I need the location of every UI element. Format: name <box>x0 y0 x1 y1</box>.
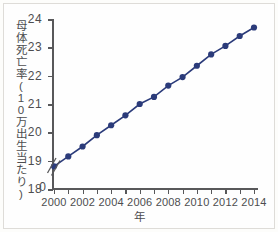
data-point-2009 <box>179 74 185 80</box>
x-tick-2007 <box>154 189 155 194</box>
data-point-2003 <box>94 132 100 138</box>
y-origin-label: 0 <box>39 180 46 194</box>
data-point-2011 <box>208 51 214 57</box>
data-point-2006 <box>137 101 143 107</box>
x-tick-2013 <box>240 189 241 194</box>
data-point-2013 <box>237 33 243 39</box>
x-axis-title: 年 <box>0 208 278 224</box>
x-tick-2003 <box>97 189 98 194</box>
data-point-2014 <box>251 24 257 30</box>
x-tick-2005 <box>125 189 126 194</box>
x-tick-2014 <box>254 189 255 194</box>
x-tick-2004 <box>111 189 112 194</box>
x-tick-2012 <box>225 189 226 194</box>
data-point-2005 <box>122 112 128 118</box>
y-tick-label-23: 23 <box>28 40 42 54</box>
x-tick-2011 <box>211 189 212 194</box>
x-tick-label-2002: 2002 <box>70 196 95 208</box>
x-tick-2006 <box>140 189 141 194</box>
y-tick-label-22: 22 <box>28 69 42 83</box>
data-point-2004 <box>108 122 114 128</box>
data-point-2001 <box>65 153 71 159</box>
y-tick-label-21: 21 <box>28 97 42 111</box>
x-tick-label-2012: 2012 <box>213 196 238 208</box>
x-tick-label-2008: 2008 <box>156 196 181 208</box>
plot-area: 18192021222324 <box>52 19 258 189</box>
y-tick-label-24: 24 <box>28 12 42 26</box>
data-point-2002 <box>79 143 85 149</box>
y-tick-label-19: 19 <box>28 154 42 168</box>
data-point-2010 <box>194 63 200 69</box>
x-tick-2002 <box>83 189 84 194</box>
x-tick-label-2000: 2000 <box>41 196 66 208</box>
x-tick-label-2014: 2014 <box>241 196 266 208</box>
data-series-line <box>52 19 258 189</box>
data-point-2012 <box>222 43 228 49</box>
data-point-2007 <box>151 94 157 100</box>
axis-break-icon <box>45 156 61 178</box>
y-tick-label-20: 20 <box>28 125 42 139</box>
x-tick-2009 <box>183 189 184 194</box>
figure-container: 母体死亡率(10万出生当たり) 18192021222324 200020022… <box>0 0 278 232</box>
y-axis-title: 母体死亡率(10万出生当たり) <box>9 20 26 200</box>
x-tick-label-2004: 2004 <box>99 196 124 208</box>
data-point-2008 <box>165 82 171 88</box>
x-tick-2000 <box>54 189 55 194</box>
x-tick-2001 <box>68 189 69 194</box>
x-tick-label-2010: 2010 <box>184 196 209 208</box>
x-tick-2010 <box>197 189 198 194</box>
x-tick-2008 <box>168 189 169 194</box>
x-tick-label-2006: 2006 <box>127 196 152 208</box>
